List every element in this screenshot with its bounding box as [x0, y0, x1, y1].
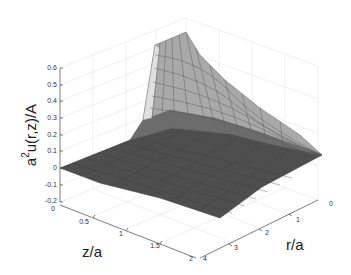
svg-text:1: 1 — [119, 230, 123, 237]
svg-text:0: 0 — [53, 164, 57, 171]
svg-text:1.5: 1.5 — [150, 242, 160, 249]
x-axis-label: z/a — [82, 243, 103, 260]
svg-text:0.4: 0.4 — [47, 97, 57, 104]
svg-text:-0.2: -0.2 — [45, 197, 57, 204]
svg-text:a2u(r,z)/A: a2u(r,z)/A — [20, 104, 39, 166]
svg-text:1: 1 — [296, 216, 300, 223]
x-tick-labels: 0 0.5 1 1.5 2 — [51, 205, 193, 262]
zoverA-axis-line — [60, 205, 196, 258]
y-axis-label: r/a — [286, 236, 304, 253]
svg-text:0.5: 0.5 — [47, 81, 57, 88]
svg-text:0.2: 0.2 — [47, 131, 57, 138]
svg-text:2: 2 — [189, 255, 193, 262]
surface — [60, 32, 322, 218]
svg-text:2: 2 — [265, 229, 269, 236]
svg-text:4: 4 — [203, 255, 207, 262]
svg-text:0: 0 — [51, 205, 55, 212]
surface-plot: 0.6 0.5 0.4 0.3 0.2 0.1 0 -0.1 -0.2 0 0.… — [0, 0, 351, 275]
z-tick-labels: 0.6 0.5 0.4 0.3 0.2 0.1 0 -0.1 -0.2 — [45, 64, 57, 204]
svg-text:0.3: 0.3 — [47, 114, 57, 121]
svg-text:0.6: 0.6 — [47, 64, 57, 71]
svg-text:0.5: 0.5 — [79, 218, 89, 225]
z-axis-label: a2u(r,z)/A — [20, 104, 39, 166]
svg-text:3: 3 — [234, 244, 238, 251]
svg-text:-0.1: -0.1 — [45, 181, 57, 188]
svg-text:0: 0 — [329, 200, 333, 207]
svg-text:0.1: 0.1 — [47, 147, 57, 154]
